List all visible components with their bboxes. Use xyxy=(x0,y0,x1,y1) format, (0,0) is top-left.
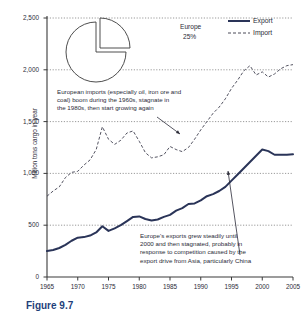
legend-label-export: Export xyxy=(253,17,273,24)
figure-container: Million tons cargo in year Europe 25% Ex… xyxy=(0,0,301,313)
export-annotation-line-1: Europe's exports grew steadily until xyxy=(140,232,251,240)
export-annotation-line-3: response to competition caused by the xyxy=(140,248,251,256)
pie-slice-label: Europe xyxy=(180,23,201,30)
export-annotation-line-4: export drive from Asia, particularly Chi… xyxy=(140,257,251,265)
y-tick-label: 500 xyxy=(9,221,39,228)
x-tick-label: 1985 xyxy=(161,283,179,290)
export-annotation-line-2: 2000 and then stagnated, probably in xyxy=(140,240,251,248)
x-tick-label: 2000 xyxy=(253,283,271,290)
x-tick-label: 1980 xyxy=(130,283,148,290)
import-annotation-arrow-head xyxy=(176,130,180,134)
y-tick-label: 2,500 xyxy=(9,14,39,21)
y-axis-label: Million tons cargo in year xyxy=(31,84,38,204)
x-tick-label: 1965 xyxy=(38,283,56,290)
pie-slice-europe xyxy=(100,18,130,48)
legend-label-import: Import xyxy=(253,29,272,36)
series-line-import xyxy=(47,65,293,197)
import-annotation-arrow xyxy=(157,117,180,134)
x-tick-label: 1995 xyxy=(223,283,241,290)
figure-caption: Figure 9.7 xyxy=(26,300,73,311)
x-tick-label: 1970 xyxy=(69,283,87,290)
y-tick-label: 1,000 xyxy=(9,169,39,176)
import-annotation-line-2: coal) boom during the 1960s, stagnate in xyxy=(57,96,181,104)
pie-slice-value: 25% xyxy=(183,33,196,40)
y-tick-label: 0 xyxy=(9,273,39,280)
export-annotation: Europe's exports grew steadily until 200… xyxy=(140,232,251,265)
y-tick-label: 2,000 xyxy=(9,66,39,73)
export-annotation-arrow-head xyxy=(227,171,230,175)
y-tick-label: 1,500 xyxy=(9,118,39,125)
import-annotation-line-1: European imports (especially oil, iron o… xyxy=(57,88,181,96)
chart-canvas xyxy=(0,0,301,313)
import-annotation: European imports (especially oil, iron o… xyxy=(57,88,181,113)
import-annotation-line-3: the 1980s, then start growing again xyxy=(57,104,181,112)
x-tick-label: 1975 xyxy=(100,283,118,290)
x-tick-label: 2005 xyxy=(284,283,301,290)
x-tick-label: 1990 xyxy=(192,283,210,290)
